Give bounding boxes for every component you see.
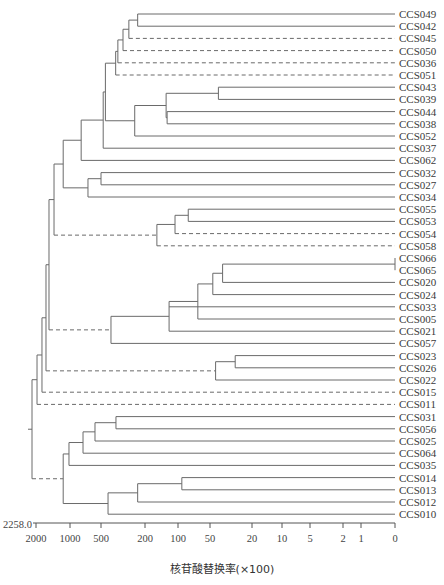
leaf-label: CCS042 [399,20,436,32]
leaf-label: CCS013 [399,484,437,496]
leaf-label: CCS065 [399,264,437,276]
leaf-label: CCS066 [399,252,437,264]
leaf-label: CCS039 [399,93,437,105]
axis-tick-label: 5 [307,533,312,544]
leaf-label: CCS012 [399,496,436,508]
leaf-label: CCS021 [399,325,436,337]
leaf-label: CCS054 [399,228,437,240]
leaf-label: CCS055 [399,203,437,215]
leaf-label: CCS033 [399,301,437,313]
axis-tick-label: 0 [392,533,397,544]
leaf-label: CCS043 [399,81,437,93]
axis-tick-label: 20 [247,533,258,544]
leaf-label: CCS036 [399,57,437,69]
leaf-label: CCS034 [399,191,437,203]
axis-tick-label: 50 [205,533,216,544]
leaf-label: CCS062 [399,154,436,166]
leaf-label: CCS038 [399,118,437,130]
leaf-label: CCS049 [399,8,437,20]
leaf-label: CCS011 [399,398,436,410]
dendrogram: CCS049CCS042CCS045CCS050CCS036CCS051CCS0… [0,0,444,560]
leaf-label: CCS051 [399,69,436,81]
x-axis: 2258.0 200010005002001005020105210 [3,519,398,544]
axis-tick-label: 2000 [26,533,47,544]
leaf-label: CCS052 [399,130,436,142]
axis-tick-label: 2 [340,533,345,544]
leaf-label: CCS037 [399,142,437,154]
leaf-label: CCS031 [399,411,436,423]
x-axis-title: 核苷酸替换率(×100) [0,560,444,576]
leaf-label: CCS064 [399,447,437,459]
leaf-label: CCS044 [399,106,437,118]
leaf-label: CCS053 [399,215,437,227]
leaf-label: CCS050 [399,45,437,57]
leaf-label: CCS057 [399,337,437,349]
leaf-label: CCS005 [399,313,437,325]
leaf-labels: CCS049CCS042CCS045CCS050CCS036CCS051CCS0… [399,8,437,520]
leaf-label: CCS023 [399,350,437,362]
axis-tick-label: 100 [170,533,186,544]
axis-max-label: 2258.0 [3,519,32,530]
axis-tick-label: 200 [137,533,153,544]
axis-tick-label: 500 [93,533,109,544]
leaf-label: CCS022 [399,374,436,386]
leaf-label: CCS035 [399,459,437,471]
leaf-label: CCS032 [399,167,436,179]
leaf-label: CCS024 [399,289,437,301]
leaf-label: CCS045 [399,32,437,44]
leaf-label: CCS015 [399,386,437,398]
branches [28,14,395,514]
leaf-label: CCS014 [399,472,437,484]
leaf-label: CCS058 [399,240,437,252]
leaf-label: CCS020 [399,276,437,288]
leaf-label: CCS010 [399,508,437,520]
leaf-label: CCS025 [399,435,437,447]
axis-tick-label: 1000 [60,533,81,544]
leaf-label: CCS026 [399,362,437,374]
leaf-label: CCS027 [399,179,437,191]
axis-tick-label: 10 [277,533,288,544]
leaf-label: CCS056 [399,423,437,435]
axis-tick-label: 1 [358,533,363,544]
axis-ticks: 200010005002001005020105210 [26,523,398,544]
